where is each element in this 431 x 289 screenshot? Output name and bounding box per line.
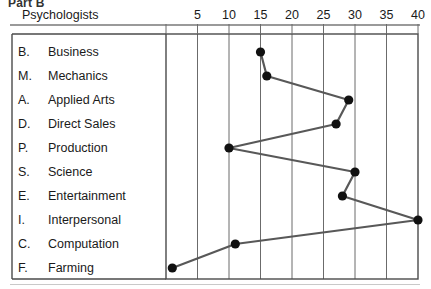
- data-point-P: [224, 143, 233, 152]
- data-point-F: [168, 263, 177, 272]
- data-point-E: [338, 191, 347, 200]
- data-point-A: [344, 95, 353, 104]
- data-point-C: [231, 239, 240, 248]
- data-point-B: [256, 47, 265, 56]
- profile-chart-page: Part B Psychologists 510152025303540 B.B…: [0, 0, 431, 289]
- plot-border: [12, 34, 418, 279]
- data-point-I: [413, 215, 422, 224]
- profile-line: [172, 52, 418, 268]
- data-point-D: [332, 119, 341, 128]
- plot-gridlines: [198, 34, 387, 279]
- footer-divider: [10, 284, 420, 285]
- plot-tickmarks: [166, 24, 418, 34]
- profile-plot: [0, 0, 431, 289]
- data-point-M: [262, 71, 271, 80]
- data-point-S: [350, 167, 359, 176]
